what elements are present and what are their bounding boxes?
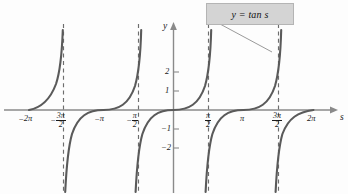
branch-neg2pi-neg3pi2 — [29, 30, 63, 110]
fraction: 3π 2 — [272, 112, 282, 129]
numerator: 3π — [56, 112, 66, 120]
branch-pospi2-pos3pi2 — [206, 30, 282, 192]
tick-value: π — [240, 113, 244, 123]
branch-neg3pi2-negpi2 — [65, 30, 141, 192]
plot-canvas — [0, 0, 348, 194]
tangent-curve — [29, 30, 314, 192]
x-tick-label-pos-pi: π — [240, 114, 244, 123]
x-tick-label-neg-3pi-2: − 3π 2 — [51, 112, 66, 129]
tangent-function-figure: y = tan s y s −2π − 3π 2 −π − π 2 π 2 π … — [0, 0, 348, 194]
legend-box: y = tan s — [206, 3, 294, 25]
fraction: π 2 — [205, 112, 211, 129]
denominator: 2 — [132, 120, 138, 129]
asymptote-lines — [64, 24, 279, 192]
y-tick-label-neg-1: −1 — [161, 124, 171, 133]
x-tick-label-pos-pi-2: π 2 — [205, 112, 211, 129]
tick-value: 2π — [307, 113, 316, 123]
x-tick-label-pos-3pi-2: 3π 2 — [272, 112, 282, 129]
x-tick-label-neg-pi: −π — [95, 114, 104, 123]
tick-value: π — [100, 113, 104, 123]
denominator: 2 — [205, 120, 211, 129]
fraction: π 2 — [132, 112, 138, 129]
y-tick-label-neg-2: −2 — [161, 143, 171, 152]
numerator: π — [132, 112, 138, 120]
denominator: 2 — [272, 120, 282, 129]
y-axis — [170, 22, 177, 193]
y-axis-label: y — [163, 22, 167, 32]
x-tick-label-pos-2pi: 2π — [307, 114, 316, 123]
legend-leader-line — [207, 24, 292, 53]
y-tick-label-1: 1 — [165, 86, 169, 95]
tick-value: 2π — [24, 113, 33, 123]
numerator: π — [205, 112, 211, 120]
y-tick-label-2: 2 — [165, 67, 169, 76]
x-tick-label-neg-2pi: −2π — [19, 114, 32, 123]
denominator: 2 — [56, 120, 66, 129]
legend-label: y = tan s — [231, 9, 268, 20]
x-axis-label: s — [340, 113, 344, 123]
numerator: 3π — [272, 112, 282, 120]
fraction: 3π 2 — [56, 112, 66, 129]
x-tick-label-neg-pi-2: − π 2 — [127, 112, 138, 129]
